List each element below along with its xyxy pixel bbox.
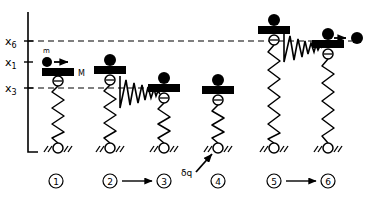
heat-input-arrow-icon	[196, 154, 212, 172]
ground-support-5	[260, 143, 288, 153]
spring-5	[268, 45, 280, 143]
state-5-group	[258, 14, 322, 153]
ground-support-4	[204, 143, 232, 153]
spring-4	[212, 105, 224, 143]
heat-input-label: δq	[181, 168, 192, 178]
ground-support-2	[96, 143, 124, 153]
big-mass-label: M	[78, 69, 85, 78]
ground-support-6	[314, 143, 342, 153]
state-badge-3: 3	[157, 174, 171, 188]
state-badge-1: 1	[49, 174, 63, 188]
state-6-group	[312, 28, 363, 153]
state-badge-6: 6	[321, 174, 335, 188]
mass-on-block-6	[322, 28, 334, 40]
state-badge-3-label: 3	[161, 177, 167, 187]
axis-label-x6: x6	[5, 35, 17, 50]
state-badge-5: 5	[267, 174, 281, 188]
block-mass-6	[312, 40, 344, 48]
state-badge-2-label: 2	[107, 177, 113, 187]
diagram-canvas: x6 x1 x3 m M	[0, 0, 368, 197]
vertical-position-axis: x6 x1 x3	[5, 12, 38, 152]
state-badge-4: 4	[211, 174, 225, 188]
state-4-group: δq	[181, 74, 234, 178]
incoming-mass-m	[42, 57, 52, 67]
block-mass-3	[148, 84, 180, 92]
mass-on-block-5	[268, 14, 280, 26]
axis-label-x1: x1	[5, 56, 17, 71]
spring-6	[322, 59, 334, 143]
spring-2	[104, 85, 116, 143]
state-badge-6-label: 6	[325, 177, 331, 187]
mass-on-block-3	[158, 72, 170, 84]
state-badge-1-label: 1	[53, 177, 59, 187]
block-mass-2	[94, 66, 126, 74]
state-2-group	[94, 54, 160, 153]
spring-1	[52, 86, 64, 143]
block-mass-M	[42, 68, 74, 76]
mass-on-block-2	[104, 54, 116, 66]
state-3-group	[148, 72, 180, 153]
small-mass-label: m	[43, 47, 50, 55]
axis-label-x3: x3	[5, 82, 17, 97]
block-mass-4	[202, 86, 234, 94]
axis-line	[28, 12, 38, 152]
state-badge-2: 2	[103, 174, 117, 188]
block-mass-5	[258, 26, 290, 34]
state-badge-4-label: 4	[215, 177, 221, 187]
state-1-group: m M	[42, 47, 85, 153]
ejected-mass-m	[351, 32, 363, 44]
ground-support-1	[44, 143, 72, 153]
spring-3	[158, 103, 170, 143]
state-badge-5-label: 5	[271, 177, 277, 187]
ground-support-3	[150, 143, 178, 153]
mass-on-block-4	[212, 74, 224, 86]
